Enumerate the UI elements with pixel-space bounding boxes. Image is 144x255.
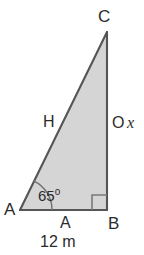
angle-label-a: 65o <box>38 188 60 203</box>
vertex-label-b: B <box>108 215 119 232</box>
vertex-label-a: A <box>4 201 15 218</box>
triangle-figure: C A B H O x A 12 m 65o <box>0 0 144 255</box>
opposite-side-label: O <box>112 115 124 131</box>
adjacent-side-measure: 12 m <box>40 234 76 250</box>
opposite-side-value: x <box>127 115 134 131</box>
hypotenuse-label: H <box>43 114 55 130</box>
degree-symbol: o <box>55 186 61 197</box>
vertex-label-c: C <box>98 8 110 25</box>
adjacent-side-label: A <box>60 215 71 231</box>
angle-value-a: 65 <box>38 187 55 204</box>
